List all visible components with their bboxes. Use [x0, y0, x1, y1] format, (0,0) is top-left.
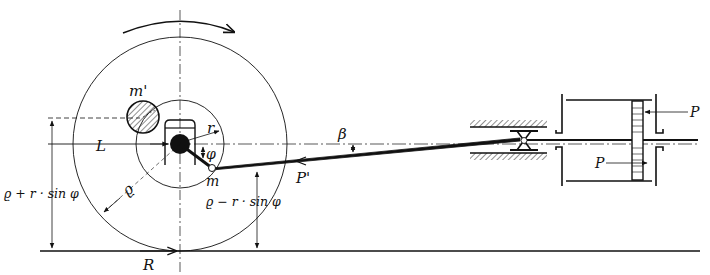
lower-guide-hatch	[470, 153, 547, 160]
label-lower-height: ϱ − r · sin φ	[206, 194, 281, 209]
label-crank-pin-mass: m	[206, 173, 219, 189]
label-crank-radius: r	[207, 119, 215, 137]
label-rod-force: P'	[295, 169, 310, 187]
upper-guide-hatch	[470, 120, 547, 127]
label-counterweight: m'	[129, 82, 147, 100]
label-pressure-top: P	[689, 104, 700, 120]
label-pressure-bottom: P	[594, 155, 605, 171]
crank-pin	[209, 165, 216, 172]
label-crank-angle: φ	[206, 146, 216, 162]
wheel-radius-arrow	[104, 198, 120, 212]
piston	[632, 101, 643, 180]
label-upper-height: ϱ + r · sin φ	[4, 186, 79, 201]
mechanism-diagram: m' r L φ m ϱ ϱ + r · sin φ ϱ − r · sin φ…	[0, 0, 710, 275]
label-rail-reaction: R	[142, 256, 154, 274]
rotation-arrow-icon	[123, 21, 234, 33]
label-axle-force: L	[95, 137, 106, 155]
crank-radius-arrow	[189, 131, 219, 140]
label-rod-angle: β	[337, 125, 347, 143]
